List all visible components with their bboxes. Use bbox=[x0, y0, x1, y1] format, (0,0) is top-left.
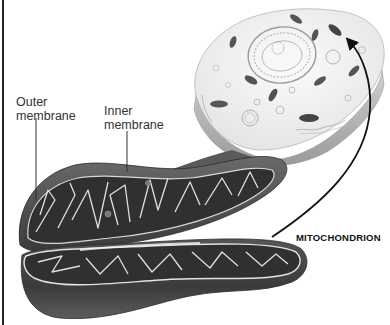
mitochondrion-illustration bbox=[19, 150, 307, 319]
outer-membrane-label: Outer membrane bbox=[16, 95, 76, 123]
diagram-illustration bbox=[0, 0, 390, 325]
outer-membrane-label-line1: Outer bbox=[16, 95, 76, 109]
mitochondrion-label: MITOCHONDRION bbox=[296, 232, 381, 243]
outer-membrane-label-line2: membrane bbox=[16, 109, 76, 123]
inner-membrane-label-line2: membrane bbox=[104, 118, 164, 132]
inner-membrane-label-line1: Inner bbox=[104, 104, 164, 118]
inner-membrane-label: Inner membrane bbox=[104, 104, 164, 132]
diagram-canvas: Outer membrane Inner membrane MITOCHONDR… bbox=[0, 0, 390, 325]
cell-illustration bbox=[194, 9, 384, 166]
